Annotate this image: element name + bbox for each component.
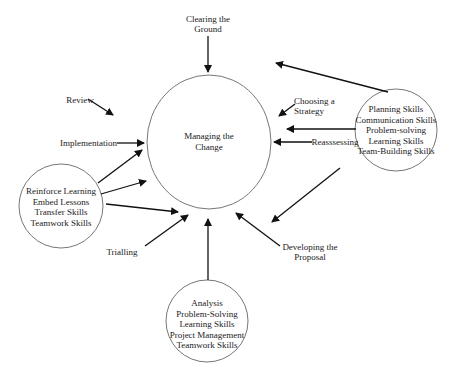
right-skill-item: Team-Building Skills: [351, 146, 441, 157]
right-skill-item: Learning Skills: [351, 136, 441, 147]
stage-developing-line-2: Proposal: [270, 252, 350, 262]
left-skill-item: Teamwork Skills: [16, 218, 106, 229]
left-to-main-arrow-3: [106, 204, 178, 212]
right-to-top-arrow: [276, 63, 388, 92]
stage-clearing-line-2: Ground: [168, 24, 248, 34]
left-to-main-arrow-1: [98, 150, 142, 183]
right-skill-item: Communication Skills: [351, 115, 441, 126]
stage-review: Review: [62, 95, 98, 105]
stage-trialling: Trialling: [104, 247, 140, 257]
stage-implementation: Implementation: [60, 138, 116, 148]
stage-choosing-line-1: Choosing a: [294, 96, 350, 106]
stage-clearing-line-1: Clearing the: [168, 14, 248, 24]
left-skill-item: Transfer Skills: [16, 207, 106, 218]
right-to-bottom-arrow: [272, 168, 340, 222]
center-label-line-1: Managing the: [169, 131, 249, 142]
bottom-skill-item: Learning Skills: [162, 319, 252, 330]
bottom-skill-item: Analysis: [162, 298, 252, 309]
stage-choosing-a-strategy: Choosing a Strategy: [294, 96, 350, 116]
choosing-strategy-arrow: [279, 104, 295, 116]
left-to-main-arrow-2: [101, 181, 146, 194]
bottom-skill-item: Project Management: [162, 330, 252, 341]
stage-clearing-the-ground: Clearing the Ground: [168, 14, 248, 34]
bottom-skills-list: Analysis Problem-Solving Learning Skills…: [162, 298, 252, 351]
left-skills-list: Reinforce Learning Embed Lessons Transfe…: [16, 186, 106, 228]
stage-developing-the-proposal: Developing the Proposal: [270, 242, 350, 262]
bottom-skill-item: Problem-Solving: [162, 309, 252, 320]
bottom-skill-item: Teamwork Skills: [162, 340, 252, 351]
right-skill-item: Planning Skills: [351, 104, 441, 115]
right-skills-list: Planning Skills Communication Skills Pro…: [351, 104, 441, 157]
trialling-arrow: [145, 215, 188, 246]
stage-choosing-line-2: Strategy: [294, 106, 350, 116]
center-label: Managing the Change: [169, 131, 249, 152]
right-skill-item: Problem-solving: [351, 125, 441, 136]
left-skill-item: Embed Lessons: [16, 197, 106, 208]
left-skill-item: Reinforce Learning: [16, 186, 106, 197]
center-label-line-2: Change: [169, 142, 249, 153]
stage-developing-line-1: Developing the: [270, 242, 350, 252]
